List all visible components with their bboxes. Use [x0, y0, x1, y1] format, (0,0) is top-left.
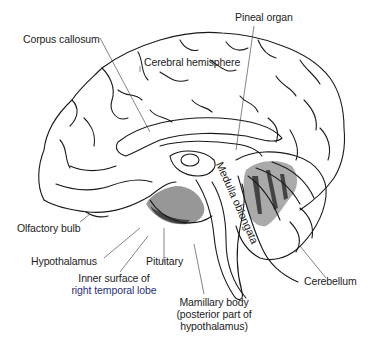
leader-corpus-callosum — [100, 38, 150, 132]
leader-mamillary-body — [194, 244, 204, 294]
label-inner-surface: Inner surface of right temporal lobe — [46, 272, 182, 296]
inner-surface-temporal: temporal lobe — [94, 284, 156, 296]
label-hypothalamus: Hypothalamus — [31, 255, 97, 267]
label-pituitary: Pituitary — [146, 255, 183, 267]
corpus-callosum-shape — [116, 118, 282, 156]
inner-surface-line1: Inner surface of — [46, 272, 182, 284]
cerebellum-stipple — [244, 161, 297, 226]
label-corpus-callosum: Corpus callosum — [23, 33, 100, 45]
leader-olfactory-bulb — [80, 214, 90, 222]
label-mamillary-body: Mamillary body (posterior part of hypoth… — [168, 296, 260, 332]
label-pineal-organ: Pineal organ — [235, 11, 293, 23]
leader-pineal-organ — [236, 26, 254, 150]
label-cerebral-hemisphere: Cerebral hemisphere — [144, 56, 240, 68]
inner-surface-right: right — [71, 284, 94, 296]
mamillary-line3: hypothalamus) — [168, 320, 260, 332]
brain-diagram: Corpus callosum Pineal organ Cerebral he… — [0, 0, 370, 350]
mamillary-line2: (posterior part of — [168, 308, 260, 320]
inner-surface-line2: right temporal lobe — [46, 284, 182, 296]
label-cerebellum: Cerebellum — [304, 275, 357, 287]
leader-cerebellum — [300, 246, 326, 278]
mamillary-line1: Mamillary body — [168, 296, 260, 308]
label-olfactory-bulb: Olfactory bulb — [17, 222, 80, 234]
